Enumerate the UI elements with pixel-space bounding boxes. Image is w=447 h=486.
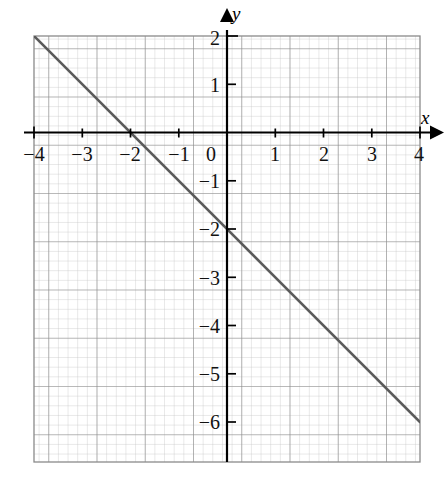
y-tick-label-2: 2 [196,28,220,48]
x-tick-label-neg2: −2 [119,144,140,164]
y-tick-label-neg5: −5 [186,364,220,384]
y-tick-label-1: 1 [196,75,220,95]
x-axis-arrowhead [430,126,444,140]
graph-canvas [0,0,447,486]
coordinate-graph: x y −4 −3 −2 −1 0 1 2 3 4 2 1 −1 −2 −3 −… [0,0,447,486]
x-tick-label-3: 3 [367,144,377,164]
x-tick-label-zero: 0 [206,144,216,164]
x-tick-label-neg4: −4 [23,144,44,164]
x-tick-label-neg3: −3 [71,144,92,164]
y-tick-label-neg6: −6 [186,412,220,432]
y-axis-name-label: y [232,4,240,23]
x-tick-label-1: 1 [270,144,280,164]
x-tick-label-2: 2 [319,144,329,164]
y-tick-label-neg2: −2 [186,219,220,239]
y-tick-label-neg4: −4 [186,316,220,336]
x-tick-label-4: 4 [414,144,424,164]
y-tick-label-neg3: −3 [186,268,220,288]
x-tick-label-neg1: −1 [168,144,189,164]
x-axis-name-label: x [421,108,429,127]
y-tick-label-neg1: −1 [186,171,220,191]
